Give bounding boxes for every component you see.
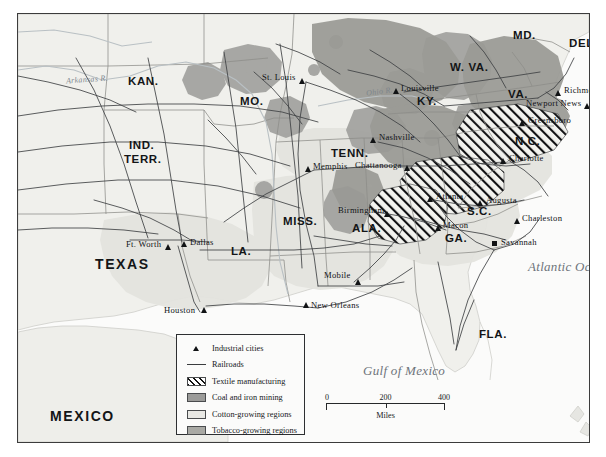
- city-marker-mobile: [355, 279, 361, 285]
- city-marker-atlanta: [427, 196, 433, 202]
- state-label-nc: N.C.: [515, 136, 540, 148]
- city-marker-charlotte: [500, 158, 506, 164]
- city-label-richmond: Richmond: [564, 86, 590, 95]
- city-marker-greensboro: [519, 120, 525, 126]
- historical-map-figure: Atlantic Ocean Gulf of Mexico Arkansas R…: [0, 0, 606, 457]
- railroad-line-icon: [183, 364, 209, 365]
- legend-label-coal-iron: Coal and iron mining: [209, 393, 283, 402]
- city-label-charleston: Charleston: [522, 214, 562, 223]
- map-scale-bar: 0 200 400 Miles: [326, 403, 445, 420]
- state-label-texas: TEXAS: [95, 257, 150, 271]
- legend-label-industrial-cities: Industrial cities: [209, 344, 263, 353]
- state-label-md: MD.: [513, 30, 536, 42]
- state-label-del: DEL.: [569, 38, 590, 50]
- textile-hatch-swatch-icon: [183, 377, 209, 386]
- city-marker-houston: [201, 307, 207, 313]
- city-label-birmingham: Birmingham: [338, 206, 384, 215]
- state-label-ga: GA.: [445, 233, 467, 245]
- city-label-ft-worth: Ft. Worth: [126, 240, 161, 249]
- city-marker-augusta: [477, 200, 483, 206]
- state-label-ky: KY.: [417, 96, 437, 108]
- city-label-newport-news: Newport News: [526, 99, 581, 108]
- city-label-memphis: Memphis: [313, 162, 348, 171]
- legend-item-coal-iron: Coal and iron mining: [183, 390, 298, 406]
- city-label-dallas: Dallas: [190, 238, 214, 247]
- state-label-wva: W. VA.: [450, 62, 489, 74]
- city-label-st-louis: St. Louis: [262, 73, 296, 82]
- city-label-houston: Houston: [164, 306, 195, 315]
- city-marker-birmingham: [384, 211, 390, 217]
- state-label-ala: ALA.: [352, 223, 381, 235]
- city-label-chattanooga: Chattanooga: [355, 161, 402, 170]
- state-label-miss: MISS.: [283, 216, 317, 228]
- state-label-mo: MO.: [240, 96, 264, 108]
- city-marker-st-louis: [299, 78, 305, 84]
- country-label-mexico: MEXICO: [50, 409, 115, 423]
- scale-label-0: 0: [325, 393, 329, 402]
- scale-bar-line: 0 200 400: [326, 403, 445, 410]
- city-marker-new-orleans: [303, 302, 309, 308]
- legend-item-industrial-cities: Industrial cities: [183, 340, 298, 356]
- scale-label-400: 400: [438, 393, 450, 402]
- city-marker-chattanooga: [404, 165, 410, 171]
- city-label-savannah: Savannah: [501, 238, 537, 247]
- legend-item-railroads: Railroads: [183, 357, 298, 373]
- city-marker-ft-worth: [165, 244, 171, 250]
- legend-label-railroads: Railroads: [209, 360, 244, 369]
- city-label-greensboro: Greensboro: [528, 116, 571, 125]
- state-label-kan: KAN.: [128, 76, 159, 88]
- state-label-terr: TERR.: [124, 154, 162, 166]
- state-label-la: LA.: [231, 246, 251, 258]
- city-label-atlanta: Atlanta: [436, 192, 463, 201]
- state-label-fla: FLA.: [479, 329, 507, 341]
- coal-iron-swatch-icon: [183, 393, 209, 402]
- state-label-ind: IND.: [129, 140, 154, 152]
- state-label-sc: S.C.: [467, 206, 492, 218]
- legend-item-textile: Textile manufacturing: [183, 373, 298, 389]
- city-marker-newport-news: [584, 103, 590, 109]
- city-marker-nashville: [370, 137, 376, 143]
- city-label-new-orleans: New Orleans: [311, 301, 359, 310]
- legend-label-tobacco: Tobacco-growing regions: [209, 426, 297, 435]
- state-label-tenn: TENN.: [331, 148, 369, 160]
- city-marker-charleston: [514, 218, 520, 224]
- city-label-augusta: Augusta: [486, 196, 517, 205]
- city-label-mobile: Mobile: [324, 271, 351, 280]
- city-label-nashville: Nashville: [379, 133, 415, 142]
- legend-label-textile: Textile manufacturing: [209, 377, 285, 386]
- legend-item-cotton: Cotton-growing regions: [183, 406, 298, 422]
- scale-unit-label: Miles: [326, 411, 445, 420]
- city-label-macon: Macon: [443, 221, 468, 230]
- city-marker-richmond: [555, 90, 561, 96]
- city-marker-louisville: [393, 88, 399, 94]
- scale-label-200: 200: [380, 393, 392, 402]
- city-marker-savannah: [492, 241, 497, 246]
- city-marker-macon: [435, 225, 441, 231]
- water-label-atlantic-ocean: Atlantic Ocean: [528, 260, 590, 273]
- legend-item-tobacco: Tobacco-growing regions: [183, 423, 298, 439]
- city-marker-dallas: [181, 241, 187, 247]
- city-marker-memphis: [305, 166, 311, 172]
- industrial-city-triangle-icon: [183, 346, 209, 351]
- city-label-charlotte: Charlotte: [509, 154, 544, 163]
- legend-label-cotton: Cotton-growing regions: [209, 410, 292, 419]
- city-label-louisville: Louisville: [401, 84, 439, 93]
- water-label-gulf-of-mexico: Gulf of Mexico: [363, 364, 445, 378]
- scale-tick-mid: [386, 404, 387, 408]
- map-legend: Industrial cities Railroads Textile manu…: [176, 334, 305, 435]
- tobacco-swatch-icon: [183, 426, 209, 435]
- cotton-swatch-icon: [183, 410, 209, 419]
